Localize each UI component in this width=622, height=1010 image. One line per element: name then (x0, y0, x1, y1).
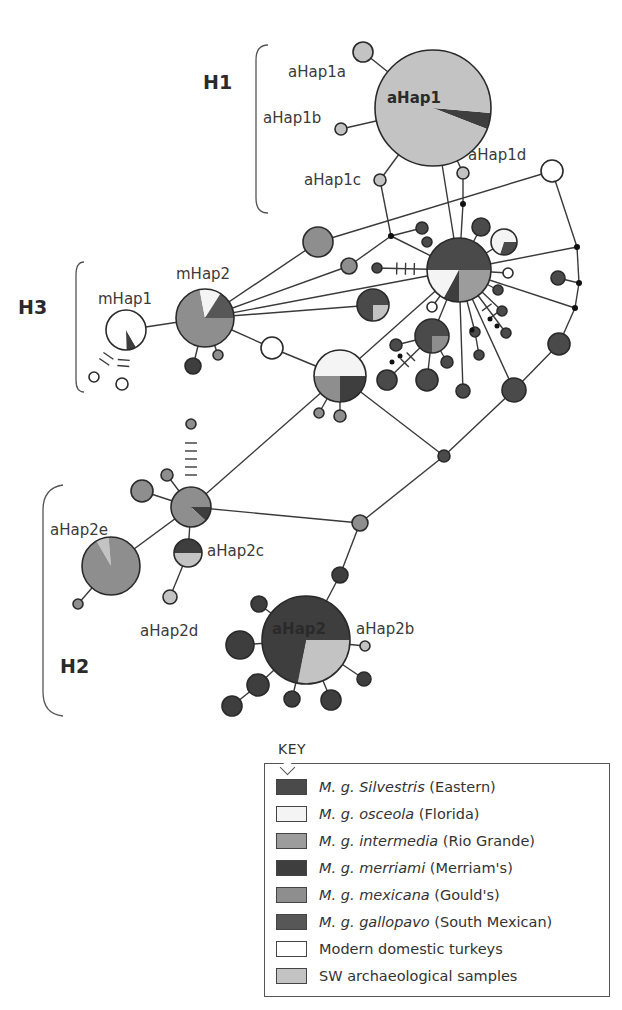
haplotype-node-midB (341, 258, 357, 274)
haplotype-label: mHap1 (98, 290, 152, 308)
key-swatch-osceola (276, 806, 307, 822)
haplotype-node-aHap2e_s (73, 599, 83, 609)
key-item: M. g. intermedia (Rio Grande) (276, 827, 552, 854)
bracket-h2 (43, 485, 63, 716)
haplotype-node-eSat2 (491, 229, 517, 255)
key-label: M. g. gallopavo (South Mexican) (319, 914, 552, 930)
haplotype-label: aHap1b (263, 109, 321, 127)
median-vector (460, 201, 466, 207)
key-swatch-domestic (276, 941, 307, 957)
haplotype-label: aHap1c (304, 171, 361, 189)
median-vector (495, 324, 500, 329)
haplotype-node-jn1 (438, 450, 450, 462)
key-item: M. g. mexicana (Gould's) (276, 881, 552, 908)
key-label: M. g. Silvestris (Eastern) (319, 779, 496, 795)
haplotype-node-m1a (89, 372, 99, 382)
haplotype-node-eSat21 (377, 370, 397, 390)
group-label-h3: H3 (18, 296, 47, 318)
haplotype-node-eSat4 (422, 237, 432, 247)
haplotype-node-eSat17 (357, 289, 389, 321)
key-label: M. g. mexicana (Gould's) (319, 887, 500, 903)
key-swatch-mexicana (276, 887, 307, 903)
haplotype-label: aHap2c (207, 542, 264, 560)
haplotype-node-eSat18 (415, 319, 449, 353)
haplotype-node-eSat14 (502, 378, 526, 402)
key-item: M. g. merriami (Merriam's) (276, 854, 552, 881)
haplotype-node-a2s3 (247, 674, 269, 696)
haplotype-node-eSat7 (493, 285, 503, 295)
haplotype-label: aHap2d (140, 622, 198, 640)
pie-slice-merriami (174, 539, 202, 553)
nodes-layer (73, 42, 570, 716)
haplotype-node-aHap2e (82, 537, 140, 595)
mutation-tick (482, 304, 492, 311)
haplotype-node-a2s2 (226, 631, 254, 659)
key-swatch-silvestris (276, 779, 307, 795)
haplotype-node-mHap2 (176, 289, 234, 347)
haplotype-label: aHap2b (356, 620, 414, 638)
haplotype-node-eSat20 (441, 356, 453, 368)
haplotype-node-m1b (116, 378, 128, 390)
pie-slice-sw_arch (298, 640, 350, 684)
haplotype-node-eSat10 (427, 302, 437, 312)
haplotype-node-eSat5 (372, 263, 382, 273)
median-vector (470, 328, 475, 333)
network-edge (380, 180, 391, 236)
haplotype-label: aHap1d (468, 146, 526, 164)
median-vector (488, 317, 493, 322)
haplotype-node-aHap1a (353, 42, 373, 62)
haplotype-node-a2s7 (357, 672, 371, 686)
network-edge (191, 376, 340, 507)
pie-slice-silvestris (427, 238, 491, 270)
key-label: M. g. intermedia (Rio Grande) (319, 833, 535, 849)
haplotype-node-eSat3 (416, 222, 428, 234)
group-label-h1: H1 (203, 71, 232, 93)
haplotype-node-hubH2 (171, 487, 211, 527)
haplotype-node-eSat22 (416, 369, 438, 391)
haplotype-node-eSat19 (390, 339, 402, 351)
haplotype-label: aHap2e (50, 521, 108, 539)
haplotype-node-aHap1d (457, 167, 469, 179)
haplotype-node-aHap2 (262, 596, 350, 684)
mutation-tick (99, 359, 109, 366)
median-vector (574, 244, 580, 250)
haplotype-node-dom1 (541, 160, 563, 182)
haplotype-label: aHap1a (288, 63, 346, 81)
haplotype-node-hm2 (334, 410, 346, 422)
key-item: M. g. gallopavo (South Mexican) (276, 908, 552, 935)
network-edge (191, 507, 360, 523)
group-label-h2: H2 (60, 655, 89, 677)
mutation-tick (118, 360, 130, 361)
median-vector (572, 305, 578, 311)
haplotype-node-a2up (332, 567, 348, 583)
haplotype-node-aHap2d (163, 590, 177, 604)
haplotype-label: mHap2 (176, 265, 230, 283)
key-list: M. g. Silvestris (Eastern)M. g. osceola … (276, 773, 552, 989)
haplotype-node-a2s5 (284, 691, 300, 707)
network-edge (360, 456, 444, 523)
mutation-tick (103, 352, 113, 359)
haplotype-node-aHap2b (360, 641, 370, 651)
haplotype-node-eSat16 (548, 333, 570, 355)
haplotype-node-eSat9 (501, 328, 511, 338)
haplotype-node-aHap2c (174, 539, 202, 567)
haplotype-node-a2s1 (251, 596, 267, 612)
median-vector (398, 354, 403, 359)
median-vector (576, 280, 582, 286)
key-title: KEY (278, 741, 306, 757)
median-vector (389, 234, 394, 239)
haplotype-label: aHap1 (387, 89, 441, 107)
bracket-h1 (256, 45, 268, 213)
haplotype-node-eSat13 (456, 384, 470, 398)
haplotype-node-h2top (186, 419, 196, 429)
mutation-tick (117, 366, 129, 367)
haplotype-node-eSat12 (474, 350, 484, 360)
haplotype-node-eSat6 (503, 268, 513, 278)
bracket-h3 (76, 262, 84, 392)
haplotype-node-h2a (131, 480, 153, 502)
key-item: M. g. osceola (Florida) (276, 800, 552, 827)
haplotype-label: aHap2 (272, 620, 326, 638)
key-label: M. g. merriami (Merriam's) (319, 860, 513, 876)
haplotype-node-jn2 (352, 515, 368, 531)
haplotype-node-m2b (213, 350, 223, 360)
